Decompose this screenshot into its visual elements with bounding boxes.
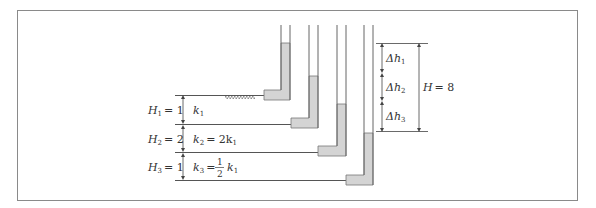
figure-frame bbox=[18, 11, 578, 201]
svg-text:H2= 2: H2= 2 bbox=[147, 133, 184, 147]
svg-text:2: 2 bbox=[217, 169, 223, 179]
svg-text:k3=: k3= bbox=[193, 161, 215, 175]
svg-text:H1= 1: H1= 1 bbox=[147, 104, 184, 118]
svg-text:k2= 2k1: k2= 2k1 bbox=[193, 133, 237, 147]
head-loss-labels: Δh1 Δh2 Δh3 H= 8 bbox=[385, 52, 454, 124]
svg-text:k1: k1 bbox=[193, 104, 204, 118]
svg-text:1: 1 bbox=[217, 157, 223, 167]
piezometer-1 bbox=[264, 25, 290, 100]
svg-text:k1: k1 bbox=[227, 161, 238, 175]
svg-text:Δh2: Δh2 bbox=[385, 81, 406, 95]
piezometer-2 bbox=[291, 25, 318, 128]
piezometer-4 bbox=[346, 25, 373, 185]
ground-hatch bbox=[225, 96, 255, 99]
piezometer-3 bbox=[318, 25, 346, 156]
svg-text:H3= 1: H3= 1 bbox=[147, 161, 184, 175]
layer-labels: H1= 1 k1 H2= 2 k2= 2k1 H3= 1 k3= 1 2 k1 bbox=[147, 104, 238, 179]
soil-layer-permeability-diagram: H1= 1 k1 H2= 2 k2= 2k1 H3= 1 k3= 1 2 k1 … bbox=[0, 0, 596, 208]
svg-text:Δh1: Δh1 bbox=[385, 52, 406, 66]
svg-text:H= 8: H= 8 bbox=[422, 81, 454, 94]
svg-text:Δh3: Δh3 bbox=[385, 110, 406, 124]
